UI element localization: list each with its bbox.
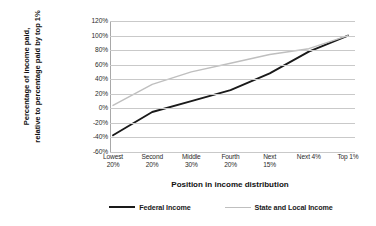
legend-label: Federal Income <box>139 203 190 212</box>
y-axis-title-line-1: Percentage of income paid, <box>22 0 33 157</box>
chart-legend: Federal IncomeState and Local Income <box>76 199 366 215</box>
x-axis-tick-label: Top 1% <box>325 153 371 161</box>
y-axis-tick-label: -40% <box>68 133 108 140</box>
y-axis-tick-label: -20% <box>68 119 108 126</box>
x-axis-tick-labels: Lowest20%Second20%Middle30%Fourth20%Next… <box>110 153 355 177</box>
legend-line-swatch <box>225 207 251 208</box>
gridline <box>110 108 355 109</box>
gridline <box>110 21 355 22</box>
y-axis-title-container: Percentage of income paid, relative to p… <box>0 0 62 170</box>
y-axis-tick-label: 0% <box>68 104 108 111</box>
y-axis-tick-label: 60% <box>68 61 108 68</box>
x-axis-tick-label-line: 15% <box>247 161 293 169</box>
gridline <box>110 36 355 37</box>
legend-item-state-and-local-income[interactable]: State and Local Income <box>225 203 333 212</box>
gridline <box>110 94 355 95</box>
y-axis-title: Percentage of income paid, relative to p… <box>22 0 43 157</box>
y-axis-title-line-2: relative to percentage paid by top 1% <box>32 0 43 157</box>
chart-figure: Percentage of income paid, relative to p… <box>0 0 376 226</box>
plot-area <box>110 21 355 152</box>
gridline <box>110 50 355 51</box>
y-axis-tick-label: 120% <box>68 17 108 24</box>
legend-line-swatch <box>109 206 135 208</box>
y-axis-tick-label: 80% <box>68 46 108 53</box>
series-line-state-and-local-income <box>113 36 348 106</box>
y-axis-tick-label: 40% <box>68 75 108 82</box>
y-axis-tick-label: 20% <box>68 90 108 97</box>
y-axis-tick-label: 100% <box>68 32 108 39</box>
legend-label: State and Local Income <box>255 203 333 212</box>
x-axis-title: Position in income distribution <box>80 180 376 189</box>
series-lines <box>110 21 355 152</box>
gridline <box>110 123 355 124</box>
gridline <box>110 65 355 66</box>
legend-item-federal-income[interactable]: Federal Income <box>109 203 190 212</box>
gridline <box>110 137 355 138</box>
x-axis-tick-label-line: Top 1% <box>325 153 371 161</box>
gridline <box>110 79 355 80</box>
y-axis-tick-labels: 120%100%80%60%40%20%0%-20%-40%-60% <box>62 0 108 226</box>
